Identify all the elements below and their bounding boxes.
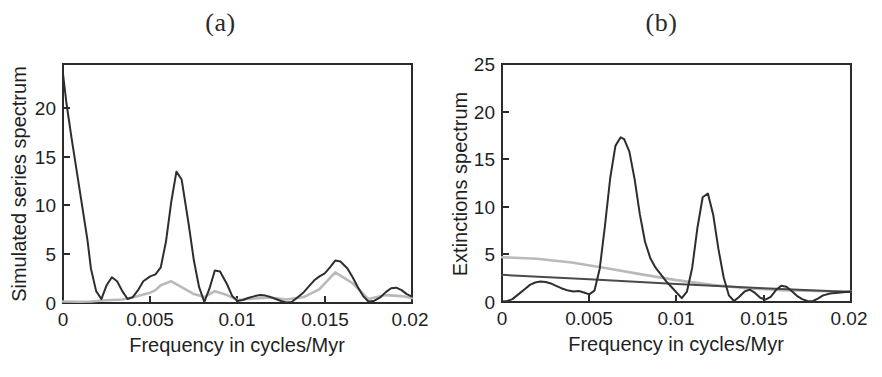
panel-a-plot: 0 5 10 15 20 0 0.005 0.01 0.015 0.02 Fre…	[0, 0, 441, 377]
panel-b-ytick-10: 10	[474, 197, 495, 218]
panel-b-yaxis-label: Extinctions spectrum	[449, 92, 471, 277]
panel-a-ytick-marks	[63, 108, 70, 303]
panel-a-axes-frame	[63, 64, 412, 303]
panel-b-ytick-0: 0	[484, 292, 495, 313]
panel-b-xtick-0: 0	[497, 308, 508, 329]
panel-b-xtick-0015: 0.015	[740, 308, 788, 329]
panel-b-ytick-20: 20	[474, 102, 495, 123]
panel-b-ytick-15: 15	[474, 149, 495, 170]
panel-a-ytick-0: 0	[45, 293, 56, 314]
panel-b-ytick-marks	[502, 64, 509, 302]
panel-a-series-group	[63, 74, 412, 303]
panel-a-xtick-0005: 0.005	[126, 309, 174, 330]
panel-b-xtick-002: 0.02	[831, 308, 868, 329]
panel-b-xtick-0005: 0.005	[565, 308, 613, 329]
panel-b-xaxis-label: Frequency in cycles/Myr	[568, 333, 784, 355]
panel-a: (a) 0 5 10 15	[0, 0, 441, 377]
panel-a-xtick-001: 0.01	[219, 309, 256, 330]
panel-b-ytick-5: 5	[484, 244, 495, 265]
panel-a-xtick-0: 0	[58, 309, 69, 330]
panel-b-series-group	[502, 137, 851, 301]
panel-b: (b) 0 5 10	[441, 0, 882, 377]
panel-a-ytick-10: 10	[35, 195, 56, 216]
panel-a-yaxis-label: Simulated series spectrum	[8, 66, 30, 302]
figure-container: (a) 0 5 10 15	[0, 0, 882, 377]
panel-a-ytick-20: 20	[35, 98, 56, 119]
panel-b-ytick-25: 25	[474, 54, 495, 75]
panel-a-ytick-15: 15	[35, 147, 56, 168]
panel-a-xaxis-label: Frequency in cycles/Myr	[129, 334, 345, 356]
panel-b-plot: 0 5 10 15 20 25 0 0.005 0.01 0.015 0.02 …	[441, 0, 882, 377]
panel-b-xtick-001: 0.01	[658, 308, 695, 329]
panel-b-series-upper-confidence	[502, 257, 851, 291]
panel-a-series-spectrum	[63, 74, 412, 303]
panel-b-series-lower-confidence	[502, 275, 851, 292]
panel-a-xtick-0015: 0.015	[301, 309, 349, 330]
panel-b-axes-frame	[502, 64, 851, 302]
panel-a-xtick-002: 0.02	[392, 309, 429, 330]
panel-a-ytick-5: 5	[45, 244, 56, 265]
